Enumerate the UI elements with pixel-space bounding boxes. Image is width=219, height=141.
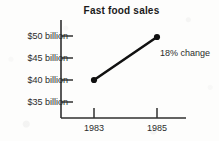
data-point-1983	[91, 77, 97, 83]
y-axis-label-50: $50 billion	[27, 31, 68, 41]
plot-area	[0, 0, 219, 141]
data-point-1985	[154, 34, 160, 40]
y-axis-label-45: $45 billion	[27, 53, 68, 63]
change-annotation: 18% change	[160, 48, 210, 58]
fast-food-sales-chart: Fast food sales $50 billion $45 billion …	[0, 0, 219, 141]
data-line-segment	[94, 37, 157, 80]
y-axis-label-35: $35 billion	[27, 97, 68, 107]
x-axis-label-1985: 1985	[147, 123, 167, 133]
x-axis-label-1983: 1983	[84, 123, 104, 133]
y-axis-label-40: $40 billion	[27, 75, 68, 85]
